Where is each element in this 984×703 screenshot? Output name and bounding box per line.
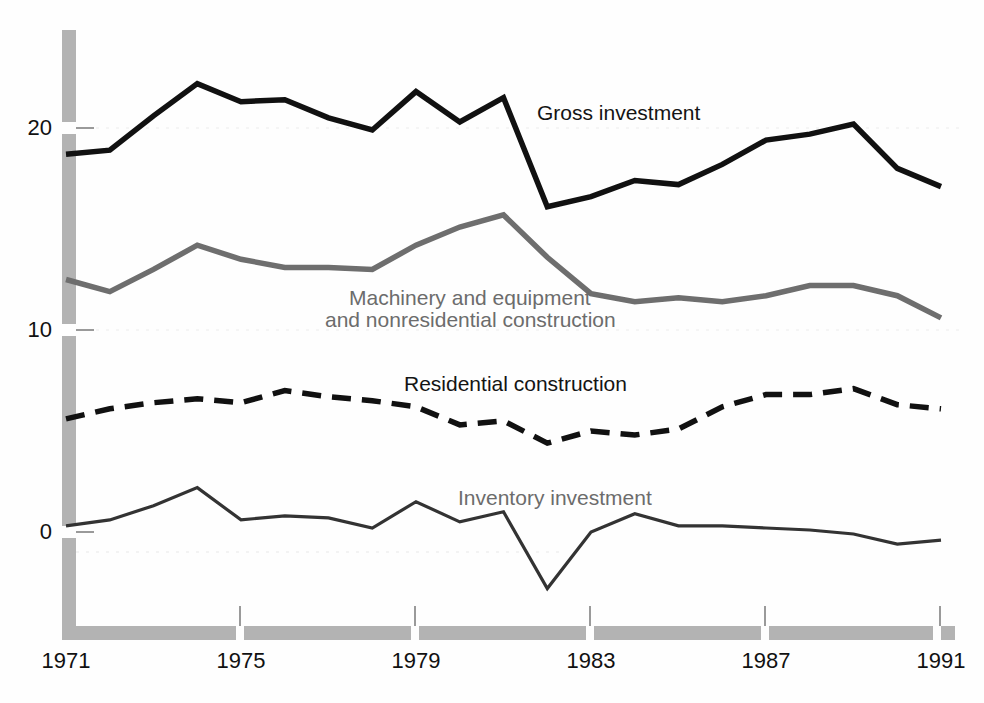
x-tick-label-1983: 1983 xyxy=(551,648,631,674)
series-line-gross-investment xyxy=(66,84,941,207)
investment-line-chart: 20 10 0 1971 1975 1979 1983 1987 1991 Gr… xyxy=(0,0,984,703)
y-tick-label-0: 0 xyxy=(6,519,52,545)
x-tick-label-1975: 1975 xyxy=(201,648,281,674)
chart-plot-area xyxy=(0,0,984,703)
x-tick-label-1971: 1971 xyxy=(26,648,106,674)
y-tick-label-10: 10 xyxy=(6,317,52,343)
y-axis-ticks xyxy=(76,128,94,532)
y-tick-label-20: 20 xyxy=(6,115,52,141)
series-label-machinery-line2: and nonresidential construction xyxy=(325,307,616,333)
series-label-gross-investment: Gross investment xyxy=(537,100,700,126)
x-tick-label-1979: 1979 xyxy=(376,648,456,674)
data-series-layer xyxy=(66,84,941,589)
series-label-inventory-investment: Inventory investment xyxy=(458,485,652,511)
x-axis-spine xyxy=(62,626,955,640)
x-tick-label-1987: 1987 xyxy=(726,648,806,674)
y-axis-spine xyxy=(62,30,76,640)
x-tick-label-1991: 1991 xyxy=(901,648,981,674)
x-axis-ticks xyxy=(240,606,940,626)
series-label-residential-construction: Residential construction xyxy=(404,371,627,397)
